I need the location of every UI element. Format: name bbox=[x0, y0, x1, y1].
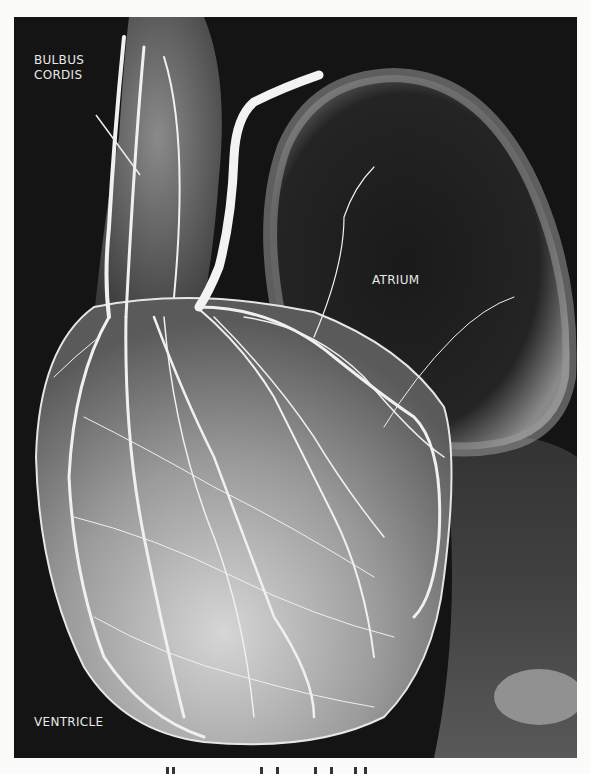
radiograph-drawing bbox=[14, 17, 577, 758]
label-atrium: ATRIUM bbox=[372, 273, 419, 288]
label-bulbus-line1: BULBUS bbox=[34, 53, 84, 68]
label-bulbus-cordis: BULBUS CORDIS bbox=[34, 53, 84, 83]
label-ventricle: VENTRICLE bbox=[34, 715, 103, 730]
label-bulbus-line2: CORDIS bbox=[34, 68, 84, 83]
heart-radiograph: BULBUS CORDIS ATRIUM VENTRICLE bbox=[14, 17, 577, 758]
cropped-caption bbox=[14, 764, 577, 774]
